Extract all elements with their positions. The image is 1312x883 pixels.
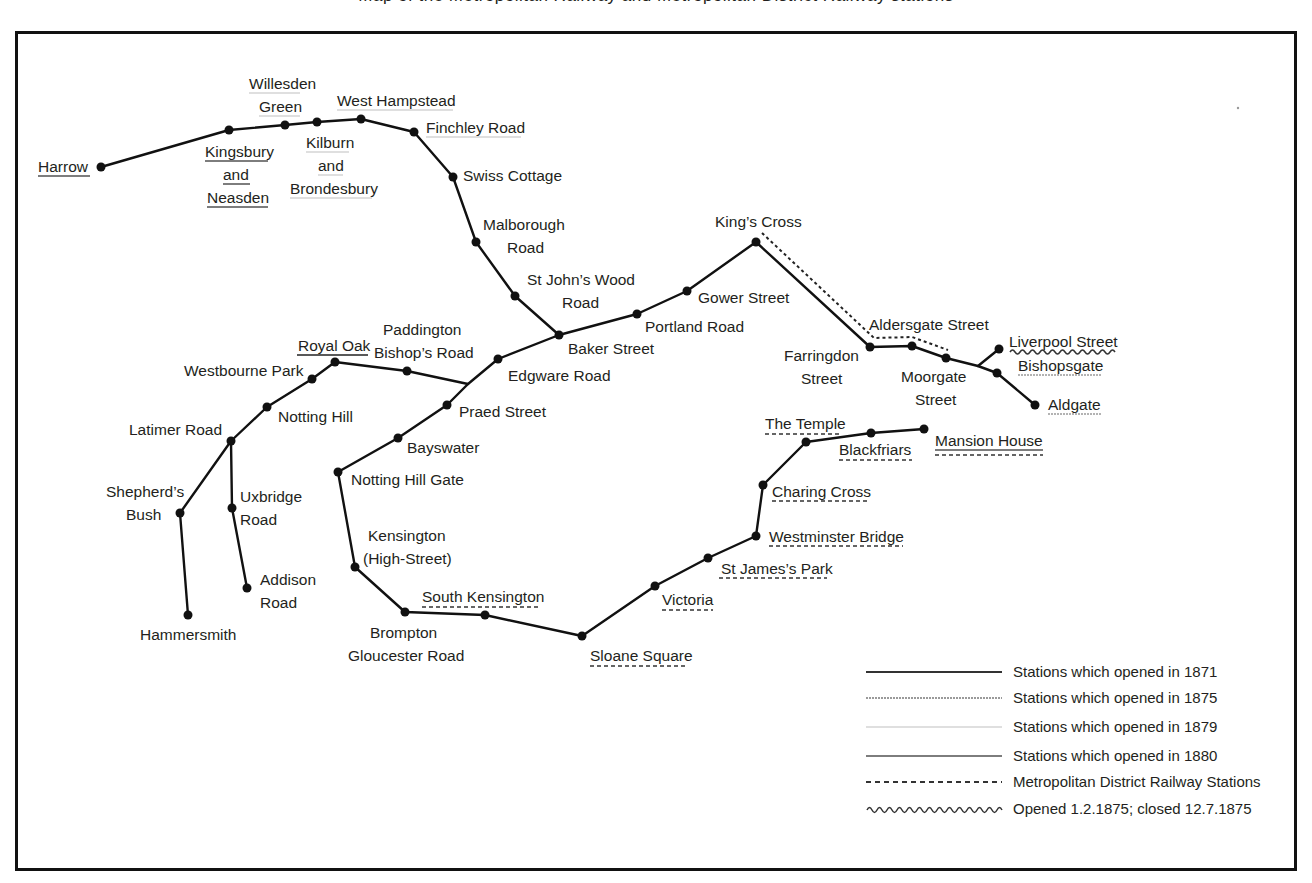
label-malborough-2: Road	[507, 239, 544, 256]
node-moorgate[interactable]	[942, 354, 951, 363]
node-paddington[interactable]	[403, 367, 412, 376]
node-the-temple[interactable]	[802, 438, 811, 447]
node-malborough-road[interactable]	[472, 238, 481, 247]
label-aldersgate: Aldersgate Street	[869, 316, 989, 333]
railway-map: Harrow Kingsbury and Neasden Willesden G…	[0, 0, 1312, 883]
label-liverpool-street: Liverpool Street	[1009, 333, 1118, 350]
label-farringdon-2: Street	[801, 370, 843, 387]
node-aldgate[interactable]	[1031, 401, 1040, 410]
label-malborough-1: Malborough	[483, 216, 565, 233]
node-st-jamess-park[interactable]	[704, 554, 713, 563]
node-harrow[interactable]	[97, 163, 106, 172]
label-moorgate-2: Street	[915, 391, 957, 408]
node-westminster-bridge[interactable]	[752, 532, 761, 541]
legend-label-wavy: Opened 1.2.1875; closed 12.7.1875	[1013, 800, 1252, 817]
node-finchley-road[interactable]	[410, 128, 419, 137]
node-portland-road[interactable]	[633, 310, 642, 319]
label-brompton-1: Brompton	[370, 624, 437, 641]
node-mansion-house[interactable]	[920, 425, 929, 434]
node-bayswater[interactable]	[394, 434, 403, 443]
node-liverpool-street[interactable]	[995, 345, 1004, 354]
legend-label-1880: Stations which opened in 1880	[1013, 747, 1217, 764]
label-shepherds-bush-1: Shepherd’s	[106, 483, 184, 500]
label-south-kensington: South Kensington	[422, 588, 544, 605]
label-bishopsgate: Bishopsgate	[1018, 357, 1103, 374]
label-kensington-1: Kensington	[368, 527, 446, 544]
label-victoria: Victoria	[662, 591, 714, 608]
node-notting-hill-gate[interactable]	[334, 468, 343, 477]
label-kingsbury-3: Neasden	[207, 189, 269, 206]
label-portland-road: Portland Road	[645, 318, 744, 335]
label-addison-1: Addison	[260, 571, 316, 588]
node-praed-street[interactable]	[443, 401, 452, 410]
node-westbourne-park[interactable]	[308, 375, 317, 384]
label-kingsbury-1: Kingsbury	[205, 143, 274, 160]
node-shepherds-bush[interactable]	[176, 509, 185, 518]
node-south-kensington[interactable]	[481, 611, 490, 620]
node-notting-hill[interactable]	[263, 403, 272, 412]
label-west-hampstead: West Hampstead	[337, 92, 456, 109]
speck	[1237, 107, 1239, 109]
label-blackfriars: Blackfriars	[839, 441, 912, 458]
node-kensington[interactable]	[351, 563, 360, 572]
node-uxbridge-road[interactable]	[228, 504, 237, 513]
label-swiss-cottage: Swiss Cottage	[463, 167, 562, 184]
label-shepherds-bush-2: Bush	[126, 506, 161, 523]
node-kilburn[interactable]	[313, 118, 322, 127]
node-swiss-cottage[interactable]	[449, 173, 458, 182]
node-west-hampstead[interactable]	[357, 115, 366, 124]
track-hammersmith-branch	[180, 362, 468, 615]
node-st-johns-wood[interactable]	[511, 292, 520, 301]
label-kingsbury-2: and	[223, 166, 249, 183]
label-brompton-2: Gloucester Road	[348, 647, 464, 664]
label-notting-hill-gate: Notting Hill Gate	[351, 471, 464, 488]
label-paddington-2: Bishop’s Road	[374, 344, 474, 361]
label-westminster-bridge: Westminster Bridge	[769, 528, 904, 545]
label-farringdon-1: Farringdon	[784, 347, 859, 364]
label-edgware-road: Edgware Road	[508, 367, 611, 384]
label-aldgate: Aldgate	[1048, 396, 1101, 413]
node-addison-road[interactable]	[243, 584, 252, 593]
node-charing-cross[interactable]	[759, 481, 768, 490]
label-royal-oak: Royal Oak	[298, 337, 371, 354]
label-kilburn-3: Brondesbury	[290, 180, 378, 197]
label-kilburn-2: and	[318, 157, 344, 174]
node-victoria[interactable]	[651, 582, 660, 591]
node-blackfriars[interactable]	[867, 429, 876, 438]
label-st-johns-1: St John’s Wood	[527, 271, 635, 288]
label-moorgate-1: Moorgate	[901, 368, 966, 385]
label-baker-street: Baker Street	[568, 340, 655, 357]
node-royal-oak[interactable]	[331, 358, 340, 367]
node-latimer-road[interactable]	[227, 437, 236, 446]
node-sloane-square[interactable]	[578, 632, 587, 641]
node-kings-cross[interactable]	[752, 238, 761, 247]
node-aldersgate[interactable]	[908, 342, 917, 351]
label-st-johns-2: Road	[562, 294, 599, 311]
label-finchley-road: Finchley Road	[426, 119, 525, 136]
node-willesden-green[interactable]	[281, 121, 290, 130]
label-kensington-2: (High-Street)	[363, 550, 452, 567]
label-kings-cross: King’s Cross	[715, 213, 802, 230]
label-willesden-2: Green	[259, 98, 302, 115]
label-praed-street: Praed Street	[459, 403, 547, 420]
label-notting-hill: Notting Hill	[278, 408, 353, 425]
legend-label-1879: Stations which opened in 1879	[1013, 718, 1217, 735]
node-hammersmith[interactable]	[184, 611, 193, 620]
label-uxbridge-1: Uxbridge	[240, 488, 302, 505]
label-gower-street: Gower Street	[698, 289, 790, 306]
node-edgware-road[interactable]	[494, 355, 503, 364]
node-baker-street[interactable]	[555, 331, 564, 340]
node-gower-street[interactable]	[683, 287, 692, 296]
node-brompton[interactable]	[401, 608, 410, 617]
label-mansion-house: Mansion House	[935, 432, 1043, 449]
label-paddington-1: Paddington	[383, 321, 461, 338]
node-kingsbury[interactable]	[225, 126, 234, 135]
label-addison-2: Road	[260, 594, 297, 611]
legend-label-1871: Stations which opened in 1871	[1013, 663, 1217, 680]
node-farringdon[interactable]	[866, 343, 875, 352]
label-willesden-1: Willesden	[249, 75, 316, 92]
station-labels: Harrow Kingsbury and Neasden Willesden G…	[38, 75, 1118, 666]
label-the-temple: The Temple	[765, 415, 846, 432]
legend-label-1875: Stations which opened in 1875	[1013, 689, 1217, 706]
node-bishopsgate[interactable]	[993, 369, 1002, 378]
